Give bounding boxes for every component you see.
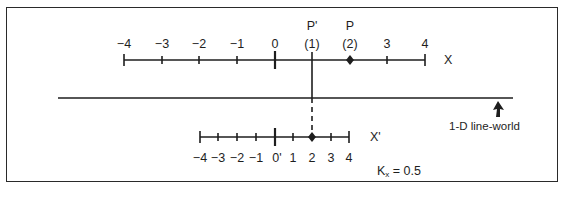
lower-tick-label: −2: [230, 151, 244, 165]
upper-tick-label: 0: [272, 37, 279, 51]
point-p-marker: [346, 55, 354, 65]
lower-tick-label: 1: [290, 151, 297, 165]
lower-axis-name: X': [370, 130, 381, 144]
upper-tick-label: (1): [304, 37, 319, 51]
upper-tick-label: −2: [192, 37, 206, 51]
upper-tick-label: (2): [342, 37, 357, 51]
arrow-up-icon: [493, 101, 504, 117]
lower-tick-label: 3: [328, 151, 335, 165]
point-p-prime-marker: [308, 132, 316, 142]
lower-tick-label: 2: [309, 151, 316, 165]
point-p-label: P: [346, 19, 354, 33]
lower-tick-label: −4: [193, 151, 207, 165]
upper-tick-label: −1: [230, 37, 244, 51]
upper-tick-label: 4: [422, 37, 429, 51]
line-world-label: 1-D line-world: [449, 119, 520, 133]
diagram-graphics: [0, 0, 564, 197]
upper-tick-label: 3: [384, 37, 391, 51]
lower-tick-label: 4: [346, 151, 353, 165]
scale-factor-subscript: x: [385, 170, 389, 179]
lower-tick-label: −1: [249, 151, 263, 165]
upper-tick-label: −3: [155, 37, 169, 51]
upper-axis-name: X: [444, 53, 452, 67]
point-p-prime-label: P': [307, 19, 318, 33]
upper-tick-label: −4: [117, 37, 131, 51]
scale-factor-value: = 0.5: [393, 164, 421, 178]
scale-factor: Kx = 0.5: [377, 164, 421, 182]
lower-tick-label: 0': [272, 151, 281, 165]
lower-tick-label: −3: [211, 151, 225, 165]
